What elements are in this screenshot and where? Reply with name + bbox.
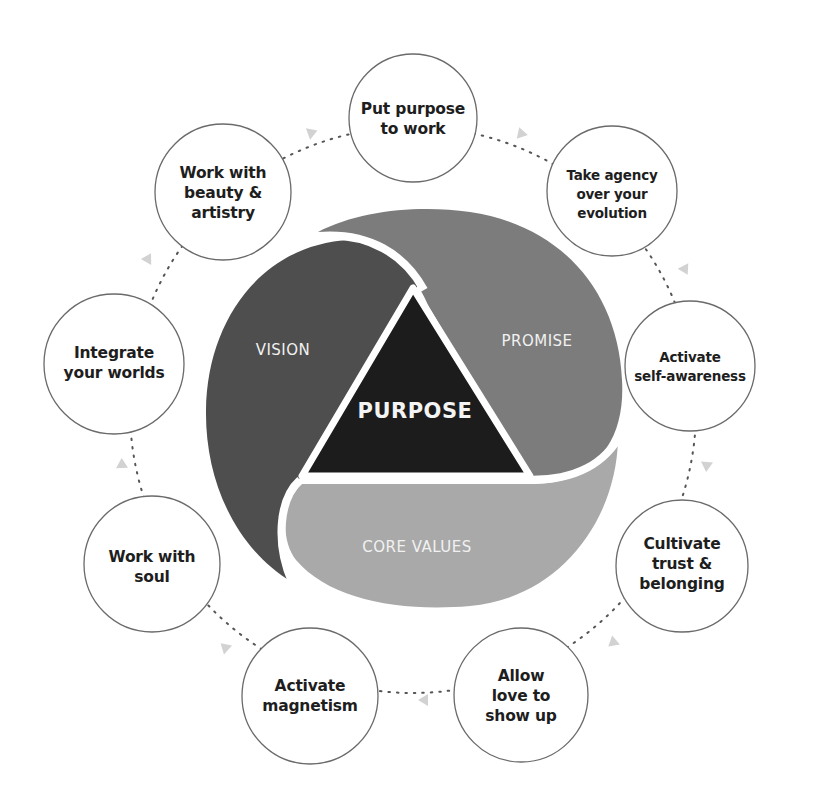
svg-text:beauty &: beauty & xyxy=(184,184,262,202)
svg-text:trust &: trust & xyxy=(652,555,712,573)
arrow-icon xyxy=(306,125,320,140)
svg-text:belonging: belonging xyxy=(639,575,724,593)
svg-text:Work with: Work with xyxy=(109,548,196,566)
node-work-with-soul: Work with soul xyxy=(84,496,220,632)
arrow-icon xyxy=(517,127,529,141)
node-put-purpose-to-work: Put purpose to work xyxy=(349,54,477,182)
svg-text:magnetism: magnetism xyxy=(262,697,358,715)
svg-text:Put purpose: Put purpose xyxy=(361,100,465,118)
node-allow-love: Allow love to show up xyxy=(454,628,588,762)
arrow-icon xyxy=(418,694,428,706)
node-cultivate-trust: Cultivate trust & belonging xyxy=(616,500,748,632)
node-integrate-your-worlds: Integrate your worlds xyxy=(44,294,184,434)
svg-text:Cultivate: Cultivate xyxy=(643,535,720,553)
core-values-label: CORE VALUES xyxy=(362,538,472,556)
arrow-icon xyxy=(700,461,713,472)
node-take-agency: Take agency over your evolution xyxy=(547,126,677,256)
purpose-label: PURPOSE xyxy=(358,399,473,423)
svg-text:Activate: Activate xyxy=(659,349,720,365)
svg-text:Activate: Activate xyxy=(275,677,346,695)
svg-text:Work with: Work with xyxy=(180,164,267,182)
svg-text:to work: to work xyxy=(381,120,447,138)
arrow-icon xyxy=(217,639,232,655)
svg-text:your worlds: your worlds xyxy=(64,364,165,382)
svg-text:over your: over your xyxy=(576,186,648,202)
vision-label: VISION xyxy=(256,341,311,359)
svg-text:self-awareness: self-awareness xyxy=(634,368,746,384)
node-activate-magnetism: Activate magnetism xyxy=(242,628,378,764)
node-work-with-beauty: Work with beauty & artistry xyxy=(155,124,291,260)
svg-text:artistry: artistry xyxy=(191,204,255,222)
purpose-cycle-diagram: VISION PROMISE CORE VALUES PURPOSE Put p… xyxy=(0,0,826,810)
svg-text:Take agency: Take agency xyxy=(566,167,658,183)
svg-text:Allow: Allow xyxy=(498,667,545,685)
svg-text:evolution: evolution xyxy=(577,205,647,221)
node-activate-self-awareness: Activate self-awareness xyxy=(625,301,755,431)
pinwheel: VISION PROMISE CORE VALUES PURPOSE xyxy=(206,209,622,607)
arrow-icon xyxy=(604,635,619,651)
promise-label: PROMISE xyxy=(501,332,572,350)
svg-text:soul: soul xyxy=(134,568,169,586)
svg-text:Integrate: Integrate xyxy=(74,344,154,362)
arrow-icon xyxy=(141,250,156,265)
svg-text:love to: love to xyxy=(492,687,551,705)
arrow-icon xyxy=(116,458,128,468)
svg-text:show up: show up xyxy=(485,707,556,725)
arrow-icon xyxy=(678,263,693,277)
